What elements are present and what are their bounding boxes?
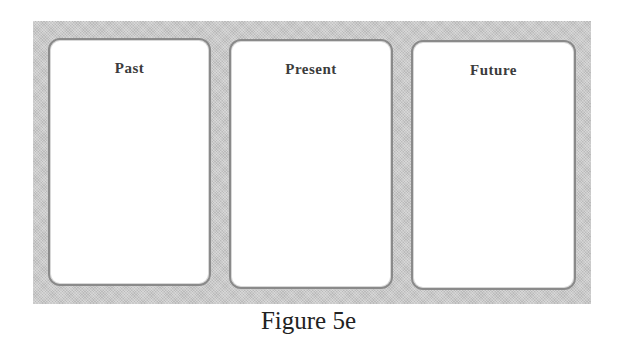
card-title-past: Past: [50, 60, 209, 77]
card-title-present: Present: [231, 61, 391, 78]
card-past: Past: [48, 38, 211, 286]
card-present: Present: [229, 39, 393, 289]
card-title-future: Future: [413, 62, 574, 79]
card-tray-panel: Past Present Future: [33, 21, 591, 304]
card-future: Future: [411, 40, 576, 290]
figure-caption: Figure 5e: [0, 307, 617, 335]
